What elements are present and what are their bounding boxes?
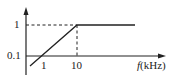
x-axis-arrow-icon	[158, 54, 166, 59]
x-axis-label: f(kHz)	[137, 60, 166, 71]
y-axis-arrow-icon	[24, 7, 29, 15]
x-tick-label-10: 10	[71, 60, 82, 71]
x-axis-unit: (kHz)	[140, 59, 166, 71]
y-tick-label-0.1: 0.1	[7, 50, 21, 61]
x-tick-label-1: 1	[41, 60, 47, 71]
y-tick-label-1: 1	[14, 19, 20, 30]
